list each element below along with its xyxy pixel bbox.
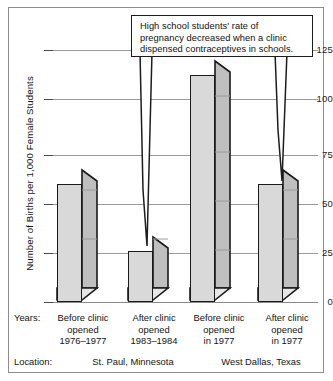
location-label-st-paul: St. Paul, Minnesota: [68, 356, 198, 367]
years-row-label: Years:: [14, 312, 40, 323]
category-1-line-3: 1976–1977: [42, 335, 124, 347]
category-4-line-2: opened: [246, 324, 328, 336]
callout-box: High school students' rate of pregnancy …: [131, 15, 313, 57]
category-1-line-1: Before clinic: [42, 312, 124, 324]
category-4-line-1: After clinic: [246, 312, 328, 324]
category-1-line-2: opened: [42, 324, 124, 336]
location-label-west-dallas: West Dallas, Texas: [196, 356, 326, 367]
callout-line-2: pregnancy decreased when a clinic: [140, 33, 305, 45]
plot-area: 125 100 75 50 25 0 Number of Births per …: [0, 0, 333, 381]
category-label-4: After clinic opened in 1977: [246, 312, 328, 347]
chart-figure: 125 100 75 50 25 0 Number of Births per …: [0, 0, 333, 381]
category-label-1: Before clinic opened 1976–1977: [42, 312, 124, 347]
callout-line-3: dispensed contraceptives in schools.: [140, 44, 305, 56]
callout-line-1: High school students' rate of: [140, 21, 305, 33]
location-row-label: Location:: [14, 356, 52, 367]
category-4-line-3: in 1977: [246, 335, 328, 347]
